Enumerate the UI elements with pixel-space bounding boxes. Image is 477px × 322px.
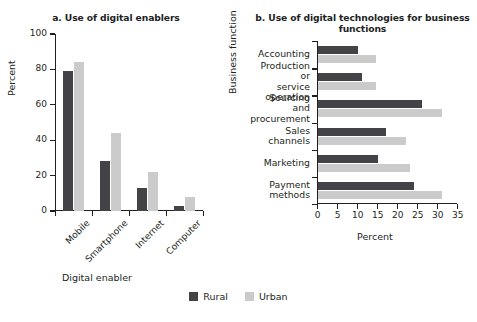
panel-b-category-label: Payment methods [269,180,310,201]
panel-b-category-label: Accounting [258,49,310,60]
panel-a-x-axis-title: Digital enabler [62,272,132,283]
chart-legend: Rural Urban [0,291,477,302]
panel-b-x-tick-label: 20 [392,211,403,220]
panel-a-bar-urban [148,172,158,211]
figure-container: a. Use of digital enablers Percent Digit… [0,0,477,322]
panel-a-y-axis-title: Percent [6,60,17,96]
panel-b-x-tick-label: 35 [452,211,463,220]
panel-b-x-tick [317,204,318,209]
panel-b-bar-rural [318,73,362,81]
panel-a-bar-rural [63,71,73,211]
panel-b-y-tick [312,204,317,205]
panel-b-y-axis-line [317,41,318,204]
panel-a-y-tick [50,33,55,34]
panel-a-y-tick [50,104,55,105]
panel-a-title: a. Use of digital enablers [26,12,206,23]
panel-b-bar-rural [318,128,386,136]
legend-item-rural: Rural [189,291,228,302]
panel-a-y-tick-label: 100 [30,29,47,38]
panel-b-title: b. Use of digital technologies for busin… [255,12,470,34]
panel-b-x-tick [357,204,358,209]
panel-a-y-tick [50,175,55,176]
panel-b-bar-rural [318,46,358,54]
panel-b-bar-rural [318,100,422,108]
panel-a-bar-urban [185,197,195,211]
legend-item-urban: Urban [245,291,288,302]
panel-b-y-tick [312,150,317,151]
panel-b-category-label: Sales channels [268,126,310,147]
panel-a-plot-area: 020406080100MobileSmartphoneInternetComp… [55,34,203,211]
panel-a-y-tick-label: 0 [41,206,47,215]
panel-a-y-tick-label: 20 [36,171,47,180]
panel-b-bar-urban [318,137,406,145]
panel-a-bar-urban [111,133,121,211]
panel-a-x-tick [92,211,93,216]
panel-b-category-label: Marketing [264,158,310,169]
panel-a-y-tick [50,140,55,141]
panel-b-x-tick [337,204,338,209]
legend-swatch-rural-icon [189,292,198,301]
panel-b-x-tick-label: 10 [352,211,363,220]
chart-panel-b: b. Use of digital technologies for busin… [215,0,477,322]
panel-b-y-tick [312,123,317,124]
panel-a-y-tick-label: 40 [36,135,47,144]
panel-b-category-label: Sourcing and procurement [250,93,310,125]
panel-a-bar-rural [174,206,184,211]
panel-a-y-axis-line [55,34,56,211]
panel-b-x-tick [397,204,398,209]
panel-b-bar-urban [318,55,376,63]
panel-b-y-tick [312,41,317,42]
panel-b-x-tick-label: 30 [432,211,443,220]
panel-b-y-tick [312,95,317,96]
panel-b-bar-urban [318,82,376,90]
panel-a-x-tick [55,211,56,216]
panel-b-x-tick-label: 25 [412,211,423,220]
panel-a-category-label: Mobile [63,218,91,246]
legend-label-urban: Urban [259,291,288,302]
panel-a-y-tick [50,69,55,70]
panel-b-y-tick [312,68,317,69]
legend-label-rural: Rural [203,291,228,302]
panel-b-bar-urban [318,191,442,199]
panel-b-bar-urban [318,109,442,117]
panel-b-y-axis-title: Business function [227,10,238,94]
panel-b-x-tick-label: 15 [372,211,383,220]
panel-a-x-tick [203,211,204,216]
panel-b-x-tick [457,204,458,209]
panel-b-bar-rural [318,155,378,163]
panel-a-x-tick [129,211,130,216]
panel-a-category-label: Internet [133,218,165,250]
panel-a-category-label: Computer [164,218,203,257]
panel-a-bar-rural [100,161,110,211]
panel-b-x-tick-label: 0 [315,211,321,220]
panel-b-plot-area: 05101520253035AccountingProduction or se… [317,41,457,204]
panel-b-x-tick [437,204,438,209]
panel-a-y-tick-label: 60 [36,100,47,109]
panel-b-bar-rural [318,182,414,190]
panel-b-bar-urban [318,164,410,172]
legend-swatch-urban-icon [245,292,254,301]
panel-b-x-tick [377,204,378,209]
panel-a-bar-urban [74,62,84,211]
panel-b-x-tick [417,204,418,209]
panel-a-y-tick-label: 80 [36,64,47,73]
panel-a-bar-rural [137,188,147,211]
panel-b-x-axis-title: Percent [357,231,393,242]
panel-b-x-tick-label: 5 [335,211,341,220]
panel-a-x-tick [166,211,167,216]
chart-panel-a: a. Use of digital enablers Percent Digit… [0,0,215,322]
panel-b-y-tick [312,177,317,178]
